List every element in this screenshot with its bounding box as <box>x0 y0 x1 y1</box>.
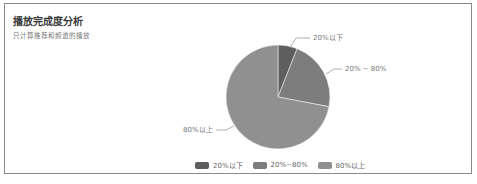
leader-line-slice0 <box>290 38 310 48</box>
leader-line-slice1 <box>326 69 342 74</box>
leader-line-slice2 <box>216 126 234 130</box>
legend-label: 20%~80% <box>271 161 308 169</box>
slice-label-below-20: 20%以下 <box>313 34 343 42</box>
slice-label-above-80: 80%以上 <box>183 125 213 134</box>
legend-swatch <box>195 162 209 169</box>
pie-chart: 20%以下 20% ~ 80% 80%以上 <box>0 0 477 184</box>
legend-item-20-80[interactable]: 20%~80% <box>253 161 308 169</box>
legend-label: 20%以下 <box>213 160 243 170</box>
legend-item-above-80[interactable]: 80%以上 <box>318 160 366 170</box>
legend-label: 80%以上 <box>336 160 366 170</box>
legend-swatch <box>253 162 267 169</box>
pie-slices <box>226 45 330 149</box>
slice-label-20-80: 20% ~ 80% <box>345 65 387 73</box>
legend-swatch <box>318 162 332 169</box>
legend-item-below-20[interactable]: 20%以下 <box>195 160 243 170</box>
chart-legend: 20%以下 20%~80% 80%以上 <box>195 160 375 170</box>
